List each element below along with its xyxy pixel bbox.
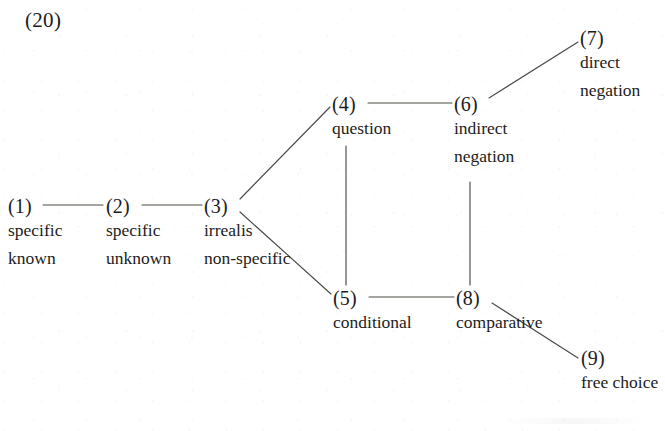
node-2-label-line-1: specific	[106, 216, 171, 244]
node-7-label-line-1: direct	[580, 48, 640, 76]
node-1-label-line-2: known	[8, 244, 62, 272]
node-5-label-line-1: conditional	[333, 308, 412, 336]
node-9[interactable]: (9) free choice	[581, 348, 658, 396]
node-8[interactable]: (8) comparative	[456, 288, 542, 336]
node-2[interactable]: (2) specific unknown	[106, 196, 171, 273]
node-7-id: (7)	[580, 28, 640, 48]
semantic-map-diagram: (20) (1) specific known (2) specific unk…	[0, 0, 665, 431]
node-5-id: (5)	[333, 288, 412, 308]
node-4-id: (4)	[332, 94, 391, 114]
node-6[interactable]: (6) indirect negation	[454, 94, 514, 171]
node-6-id: (6)	[454, 94, 514, 114]
node-2-id: (2)	[106, 196, 171, 216]
node-9-label-line-1: free choice	[581, 368, 658, 396]
node-1-label: specific known	[8, 216, 62, 273]
example-number: (20)	[25, 8, 61, 33]
node-7-label: direct negation	[580, 48, 640, 105]
node-5-label: conditional	[333, 308, 412, 336]
node-8-label-line-1: comparative	[456, 308, 542, 336]
node-8-id: (8)	[456, 288, 542, 308]
node-7-label-line-2: negation	[580, 76, 640, 104]
node-6-label-line-2: negation	[454, 142, 514, 170]
node-2-label-line-2: unknown	[106, 244, 171, 272]
node-3-label-line-2: non-specific	[204, 244, 291, 272]
node-3[interactable]: (3) irrealis non-specific	[204, 196, 291, 273]
scan-artifact	[505, 418, 645, 424]
node-2-label: specific unknown	[106, 216, 171, 273]
paper-texture	[0, 0, 665, 431]
node-1-id: (1)	[8, 196, 62, 216]
node-1[interactable]: (1) specific known	[8, 196, 62, 273]
node-6-label: indirect negation	[454, 114, 514, 171]
edge-6-7	[489, 42, 578, 98]
node-9-id: (9)	[581, 348, 658, 368]
node-7[interactable]: (7) direct negation	[580, 28, 640, 105]
node-3-label-line-1: irrealis	[204, 216, 291, 244]
edge-3-4	[240, 107, 330, 199]
node-4-label-line-1: question	[332, 114, 391, 142]
edge-layer	[0, 0, 665, 431]
node-5[interactable]: (5) conditional	[333, 288, 412, 336]
node-1-label-line-1: specific	[8, 216, 62, 244]
node-4[interactable]: (4) question	[332, 94, 391, 142]
node-6-label-line-1: indirect	[454, 114, 514, 142]
node-4-label: question	[332, 114, 391, 142]
node-3-id: (3)	[204, 196, 291, 216]
node-9-label: free choice	[581, 368, 658, 396]
node-3-label: irrealis non-specific	[204, 216, 291, 273]
node-8-label: comparative	[456, 308, 542, 336]
